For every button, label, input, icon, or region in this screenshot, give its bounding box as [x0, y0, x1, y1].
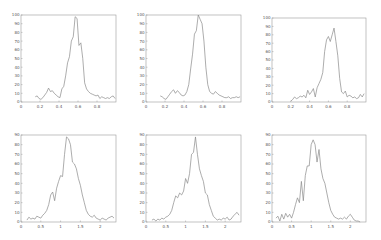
y-tick-label: 90 [139, 21, 145, 26]
y-tick-label: 50 [139, 56, 145, 61]
y-tick-label: 40 [14, 65, 20, 70]
y-tick-label: 20 [14, 200, 20, 205]
subplot-grid: 010203040506070809010000.20.40.60.801020… [0, 0, 381, 240]
y-tick-label: 90 [265, 24, 271, 29]
subplot-6: 010203040506070809000.511.52 [265, 132, 366, 229]
y-tick-label: 40 [14, 181, 20, 186]
y-tick-label: 70 [14, 152, 20, 157]
y-tick-label: 80 [265, 32, 271, 37]
x-tick-label: 0 [271, 104, 274, 109]
y-tick-label: 80 [139, 142, 145, 147]
y-tick-label: 50 [265, 57, 271, 62]
y-tick-label: 60 [139, 161, 145, 166]
y-tick-label: 80 [14, 142, 20, 147]
data-line [152, 137, 239, 221]
axes-box [21, 135, 116, 222]
x-tick-label: 0.8 [219, 104, 226, 109]
y-tick-label: 30 [14, 73, 20, 78]
axes-box [146, 135, 241, 222]
y-tick-label: 60 [14, 161, 20, 166]
data-line [27, 137, 114, 220]
y-tick-label: 40 [139, 181, 145, 186]
y-tick-label: 70 [139, 39, 145, 44]
x-tick-label: 0.2 [37, 104, 44, 109]
y-tick-label: 100 [137, 12, 145, 17]
x-tick-label: 0 [271, 224, 274, 229]
data-line [276, 140, 360, 222]
x-tick-label: 2 [99, 224, 102, 229]
y-tick-label: 40 [139, 65, 145, 70]
axes-box [146, 15, 241, 102]
y-tick-label: 20 [14, 82, 20, 87]
y-tick-label: 60 [14, 47, 20, 52]
x-tick-label: 0 [20, 224, 23, 229]
y-tick-label: 30 [139, 190, 145, 195]
axes-box [272, 135, 366, 222]
y-tick-label: 10 [14, 210, 20, 215]
x-tick-label: 0.8 [94, 104, 101, 109]
x-tick-label: 1 [59, 224, 62, 229]
data-line [160, 15, 240, 99]
y-tick-label: 10 [265, 91, 271, 96]
y-tick-label: 50 [14, 171, 20, 176]
y-tick-label: 10 [139, 91, 145, 96]
x-tick-label: 0 [145, 104, 148, 109]
x-tick-label: 0.4 [181, 104, 188, 109]
x-tick-label: 0 [20, 104, 23, 109]
y-tick-label: 20 [265, 200, 271, 205]
x-tick-label: 2 [224, 224, 227, 229]
y-tick-label: 90 [139, 132, 145, 137]
x-tick-label: 2 [349, 224, 352, 229]
y-tick-label: 20 [139, 82, 145, 87]
figure-canvas: 010203040506070809010000.20.40.60.801020… [0, 0, 381, 240]
y-tick-label: 90 [14, 132, 20, 137]
y-tick-label: 90 [265, 132, 271, 137]
y-tick-label: 20 [139, 200, 145, 205]
x-tick-label: 0.2 [288, 104, 295, 109]
subplot-4: 010203040506070809000.511.52 [14, 132, 116, 229]
y-tick-label: 80 [139, 30, 145, 35]
y-tick-label: 60 [139, 47, 145, 52]
y-tick-label: 20 [265, 83, 271, 88]
subplot-5: 010203040506070809000.511.52 [139, 132, 241, 229]
y-tick-label: 90 [14, 21, 20, 26]
axes-box [21, 15, 116, 102]
subplot-2: 010203040506070809010000.20.40.60.8 [137, 12, 241, 109]
x-tick-label: 0.5 [163, 224, 170, 229]
y-tick-label: 60 [265, 49, 271, 54]
y-tick-label: 10 [265, 210, 271, 215]
x-tick-label: 0.5 [38, 224, 45, 229]
data-line [291, 28, 364, 101]
x-tick-label: 0.5 [288, 224, 295, 229]
x-tick-label: 0.6 [75, 104, 82, 109]
subplot-3: 010203040506070809010000.20.40.60.8 [263, 15, 366, 109]
x-tick-label: 1.5 [328, 224, 335, 229]
x-tick-label: 0.8 [344, 104, 351, 109]
y-tick-label: 30 [14, 190, 20, 195]
subplot-1: 010203040506070809010000.20.40.60.8 [12, 12, 116, 109]
x-tick-label: 1.5 [77, 224, 84, 229]
x-tick-label: 1.5 [202, 224, 209, 229]
x-tick-label: 0.4 [306, 104, 313, 109]
y-tick-label: 100 [12, 12, 20, 17]
y-tick-label: 30 [139, 73, 145, 78]
x-tick-label: 0 [145, 224, 148, 229]
x-tick-label: 1 [184, 224, 187, 229]
y-tick-label: 40 [265, 66, 271, 71]
y-tick-label: 40 [265, 181, 271, 186]
y-tick-label: 70 [14, 39, 20, 44]
x-tick-label: 0.4 [56, 104, 63, 109]
y-tick-label: 80 [265, 142, 271, 147]
y-tick-label: 60 [265, 161, 271, 166]
y-tick-label: 30 [265, 74, 271, 79]
y-tick-label: 70 [265, 41, 271, 46]
y-tick-label: 70 [139, 152, 145, 157]
y-tick-label: 50 [265, 171, 271, 176]
data-line [35, 17, 115, 100]
y-tick-label: 50 [139, 171, 145, 176]
y-tick-label: 10 [14, 91, 20, 96]
x-tick-label: 0.6 [200, 104, 207, 109]
axes-box [272, 18, 366, 102]
x-tick-label: 0.2 [162, 104, 169, 109]
y-tick-label: 10 [139, 210, 145, 215]
